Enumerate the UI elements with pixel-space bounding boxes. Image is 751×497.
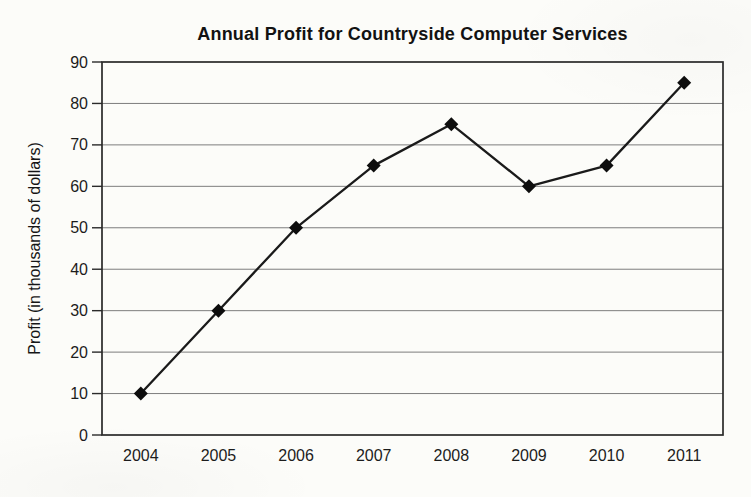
y-tick-label: 90 <box>70 54 88 71</box>
y-tick-label: 30 <box>70 302 88 319</box>
plot-border <box>102 62 723 435</box>
chart-page: Annual Profit for Countryside Computer S… <box>0 0 751 497</box>
x-tick-label: 2009 <box>511 447 547 464</box>
x-tick-label: 2005 <box>201 447 237 464</box>
line-chart: 0102030405060708090200420052006200720082… <box>0 0 751 497</box>
x-tick-label: 2006 <box>278 447 314 464</box>
y-axis-title: Profit (in thousands of dollars) <box>26 142 43 355</box>
profit-line <box>141 83 684 394</box>
y-tick-label: 0 <box>79 427 88 444</box>
x-tick-label: 2008 <box>434 447 470 464</box>
y-tick-label: 80 <box>70 95 88 112</box>
y-tick-label: 70 <box>70 136 88 153</box>
y-tick-label: 40 <box>70 261 88 278</box>
x-tick-label: 2007 <box>356 447 392 464</box>
y-tick-label: 20 <box>70 344 88 361</box>
y-tick-label: 10 <box>70 385 88 402</box>
y-tick-label: 60 <box>70 178 88 195</box>
y-tick-label: 50 <box>70 219 88 236</box>
x-tick-label: 2011 <box>667 447 702 464</box>
x-tick-label: 2004 <box>123 447 159 464</box>
x-tick-label: 2010 <box>589 447 625 464</box>
